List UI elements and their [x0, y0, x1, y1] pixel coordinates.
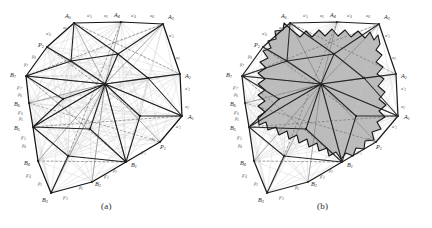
vertex-label-P1: P1 — [375, 143, 382, 151]
edge-label-a3p: α′3 — [169, 33, 174, 39]
edge-label-a6: α6 — [63, 25, 67, 31]
edge-label-a3p: α′3 — [385, 33, 390, 39]
vertex-label-B7: B7 — [10, 71, 17, 79]
edge-label-a2p: α′2 — [185, 86, 190, 92]
edge-label-b7: β7 — [239, 62, 244, 68]
edge-label-b3: β3 — [37, 181, 42, 187]
edge-label-b6: β6 — [233, 92, 238, 98]
edge-label-b7: β7 — [23, 62, 28, 68]
edge-label-a1p: α′1 — [176, 124, 181, 130]
edge-label-b7p: β′7 — [16, 85, 22, 91]
edge-label-b5p: β′5 — [236, 135, 242, 141]
vertex-label-A5: A5 — [64, 12, 71, 20]
vertex-label-A5: A5 — [280, 12, 287, 20]
edge-label-b5: β5 — [18, 116, 23, 122]
edge-label-b4: β4 — [237, 143, 242, 149]
vertex-label-A1: A1 — [187, 113, 194, 121]
vertex-label-B5: B5 — [230, 124, 236, 132]
panel-a: A5 A4 A3 A2 A1 P1 B1 B2 B3 B4 B5 B6 B7 P… — [10, 11, 194, 204]
vertex-label-B3: B3 — [42, 196, 48, 204]
edge-label-b2p: β′2 — [319, 174, 325, 180]
vertex-label-A2: A2 — [184, 72, 191, 80]
edge-label-b3p: β′3 — [278, 195, 284, 201]
vertex-label-B2: B2 — [311, 180, 317, 188]
edge-label-b4p: β′4 — [241, 173, 247, 179]
edge-label-a2: α2 — [401, 104, 405, 110]
edge-label-a4: α4 — [150, 13, 154, 19]
figure-root: A5 A4 A3 A2 A1 P1 B1 B2 B3 B4 B5 B6 B7 P… — [0, 0, 432, 228]
edge-label-b1: β1 — [328, 168, 333, 174]
vertex-label-B1: B1 — [131, 161, 137, 169]
edge-label-b7p: β′7 — [232, 85, 238, 91]
edge-label-a6p: α′6 — [46, 31, 51, 37]
edge-label-b8: β8 — [31, 54, 36, 60]
edge-label-b1: β1 — [112, 168, 117, 174]
vertex-label-B6: B6 — [230, 100, 237, 108]
edge-label-b5p: β′5 — [20, 135, 26, 141]
vertex-label-B2: B2 — [95, 180, 101, 188]
edge-label-b4: β4 — [21, 143, 26, 149]
edge-label-b3p: β′3 — [62, 195, 68, 201]
vertex-label-B4: B4 — [240, 159, 246, 167]
vertex-label-A3: A3 — [167, 13, 174, 21]
vertex-label-P2: P2 — [253, 41, 260, 49]
edge-label-a4p: α′4 — [347, 13, 352, 19]
panel-a-caption: (a) — [101, 201, 112, 211]
edge-label-a6p: α′6 — [262, 31, 267, 37]
vertex-label-B7: B7 — [226, 71, 233, 79]
edge-label-b2: β2 — [294, 185, 299, 191]
edge-label-a5: α5 — [104, 13, 108, 19]
vertex-label-P2: P2 — [37, 41, 44, 49]
edge-label-a3: α3 — [176, 55, 180, 61]
edge-label-a2: α2 — [185, 104, 189, 110]
vertex-label-A2: A2 — [400, 72, 407, 80]
vertex-label-B4: B4 — [24, 159, 30, 167]
panel-b: A5 A4 A3 A2 A1 P1 B1 B2 B3 B4 B5 B6 B7 P… — [226, 11, 410, 204]
edge-label-b3: β3 — [253, 181, 258, 187]
figure-svg: A5 A4 A3 A2 A1 P1 B1 B2 B3 B4 B5 B6 B7 P… — [0, 0, 432, 228]
edge-label-b2: β2 — [78, 185, 83, 191]
edge-label-a5p: α′5 — [87, 13, 92, 19]
edge-label-a3: α3 — [392, 55, 396, 61]
panel-b-caption: (b) — [317, 201, 328, 211]
edge-label-b4p: β′4 — [25, 173, 31, 179]
edge-label-a4: α4 — [366, 13, 370, 19]
panel-a-geometry — [25, 21, 183, 194]
edge-label-a5: α5 — [320, 13, 324, 19]
edge-label-a1p: α′1 — [392, 124, 397, 130]
vertex-label-B1: B1 — [347, 161, 353, 169]
vertex-label-A3: A3 — [383, 13, 390, 21]
vertex-label-B3: B3 — [258, 196, 264, 204]
vertex-label-B6: B6 — [14, 100, 21, 108]
vertex-label-A4: A4 — [113, 11, 120, 19]
vertex-label-P1: P1 — [159, 143, 166, 151]
edge-label-b5: β5 — [234, 116, 239, 122]
edge-label-a5p: α′5 — [303, 13, 308, 19]
vertex-label-A4: A4 — [329, 11, 336, 19]
edge-label-a2p: α′2 — [401, 86, 406, 92]
edge-label-b2p: β′2 — [103, 174, 109, 180]
edge-label-b8: β8 — [247, 54, 252, 60]
edge-label-a4p: α′4 — [131, 13, 136, 19]
vertex-label-B5: B5 — [14, 124, 20, 132]
vertex-label-A1: A1 — [403, 113, 410, 121]
edge-label-b6: β6 — [17, 92, 22, 98]
